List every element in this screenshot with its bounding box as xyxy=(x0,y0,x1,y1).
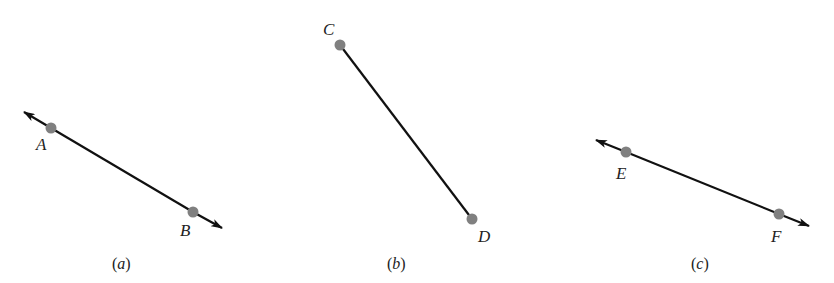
label-d: D xyxy=(477,227,491,246)
caption-a: (a) xyxy=(112,255,131,273)
label-c: C xyxy=(323,20,335,39)
point-f xyxy=(774,209,785,220)
label-f: F xyxy=(770,227,782,246)
label-b: B xyxy=(180,221,191,240)
caption-b: (b) xyxy=(387,255,406,273)
panel-c-line-ef: E F (c) xyxy=(596,140,809,273)
label-e: E xyxy=(615,164,627,183)
segment-cd xyxy=(340,45,472,219)
panel-b-segment-cd: C D (b) xyxy=(323,20,491,273)
point-c xyxy=(335,40,346,51)
line-ef-body xyxy=(626,152,779,214)
line-ab-body xyxy=(51,128,193,212)
caption-c: (c) xyxy=(691,255,709,273)
label-a: A xyxy=(35,135,47,154)
point-d xyxy=(467,214,478,225)
geometry-diagram: A B (a) C D (b) E F (c) xyxy=(0,0,834,283)
point-a xyxy=(46,123,57,134)
point-e xyxy=(621,147,632,158)
point-b xyxy=(188,207,199,218)
panel-a-line-ab: A B (a) xyxy=(24,112,222,273)
